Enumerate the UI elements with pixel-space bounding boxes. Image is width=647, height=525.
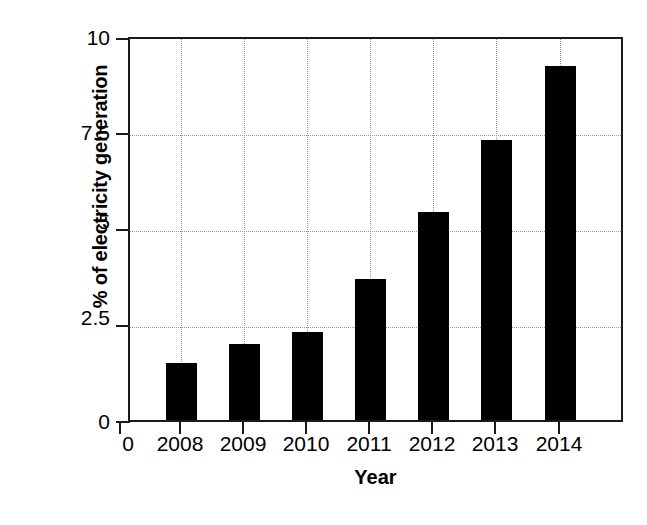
y-tick-label-7_5: 7.5: [40, 121, 110, 145]
bar-2011: [355, 279, 386, 420]
bar-chart: % of electricity generation 0 2.5 5 7.5 …: [0, 0, 647, 525]
bar-2009: [229, 344, 260, 420]
bar-2010: [292, 332, 323, 420]
x-axis-title: Year: [128, 466, 623, 489]
plot-area: [128, 37, 623, 422]
bar-2013: [481, 140, 512, 420]
y-tick-label-5: 5: [40, 210, 110, 234]
y-tick-label-10: 10: [40, 26, 110, 50]
y-tick-label-0: 0: [40, 410, 110, 434]
bars: [130, 39, 621, 420]
x-tick-label-2014: 2014: [519, 432, 599, 456]
bar-2008: [166, 363, 197, 420]
bar-2012: [418, 212, 449, 420]
y-tick-label-2_5: 2.5: [40, 306, 110, 330]
bar-2014: [545, 66, 576, 420]
